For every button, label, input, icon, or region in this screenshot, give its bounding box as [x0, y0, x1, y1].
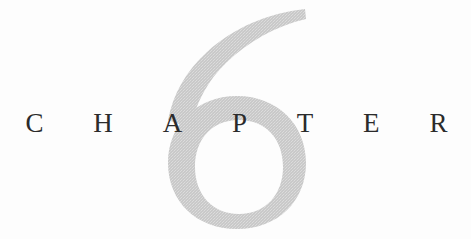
chapter-letter-p: P	[232, 110, 247, 137]
chapter-letter-c: C	[26, 110, 44, 137]
chapter-letter-t: T	[297, 110, 314, 137]
chapter-letter-h: H	[93, 110, 113, 137]
chapter-letter-e: E	[363, 110, 380, 137]
chapter-word: C H A P T E R	[0, 105, 471, 137]
chapter-opener-page: C H A P T E R	[0, 0, 471, 239]
chapter-letter-a: A	[163, 110, 183, 137]
chapter-letter-r: R	[429, 110, 447, 137]
chapter-letters: C H A P T E R	[26, 110, 448, 137]
